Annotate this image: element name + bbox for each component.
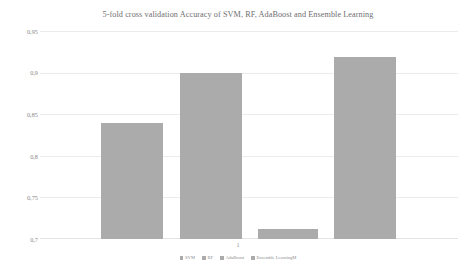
chart-title: 5-fold cross validation Accuracy of SVM,…	[0, 9, 476, 20]
legend-label: RF	[208, 255, 214, 261]
plot-area	[40, 31, 458, 239]
legend-item-rf[interactable]: RF	[202, 255, 213, 261]
legend-label: AdaBoost	[226, 255, 244, 261]
legend-swatch-icon	[251, 256, 255, 260]
y-tick-label: 0,9	[4, 69, 38, 76]
gridline	[40, 31, 458, 32]
bar-adaboost[interactable]	[258, 229, 318, 239]
y-tick-label: 0,75	[4, 194, 38, 201]
bar-rf[interactable]	[180, 73, 242, 239]
y-axis: 0,95 0,9 0,85 0,8 0,75 0,7	[0, 31, 38, 239]
bar-ensemble[interactable]	[334, 57, 396, 239]
legend-item-svm[interactable]: SVM	[180, 255, 195, 261]
bar-svm[interactable]	[101, 123, 163, 239]
legend-item-adaboost[interactable]: AdaBoost	[220, 255, 244, 261]
legend-label: SVM	[185, 255, 195, 261]
legend-label: Ensemble LearningM	[257, 255, 297, 261]
legend: SVM RF AdaBoost Ensemble LearningM	[0, 255, 476, 261]
legend-item-ensemble-learning[interactable]: Ensemble LearningM	[251, 255, 296, 261]
legend-swatch-icon	[202, 256, 206, 260]
x-axis-category-label: 1	[0, 241, 476, 249]
legend-swatch-icon	[180, 256, 184, 260]
y-tick-label: 0,85	[4, 111, 38, 118]
y-tick-label: 0,95	[4, 28, 38, 35]
legend-swatch-icon	[220, 256, 224, 260]
chart-container: 5-fold cross validation Accuracy of SVM,…	[0, 0, 476, 277]
y-tick-label: 0,8	[4, 153, 38, 160]
